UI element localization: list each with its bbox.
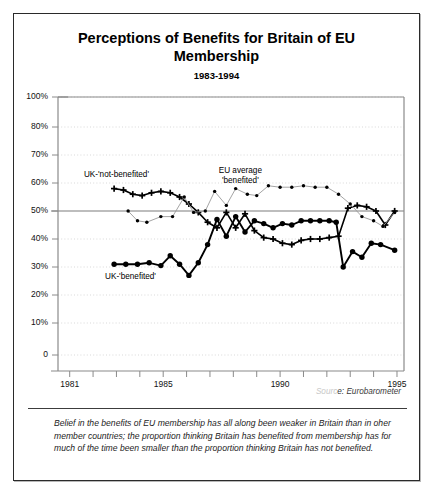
- y-axis-tick-label: 40%: [12, 234, 48, 243]
- series-line: [114, 189, 395, 245]
- series-marker-dot: [204, 209, 207, 212]
- series-label: EU average'benefited': [219, 166, 262, 186]
- series-marker-dot: [145, 221, 148, 224]
- series-marker-dot: [205, 242, 210, 247]
- y-axis-tick-label: 100%: [12, 92, 48, 101]
- series-marker-dot: [255, 194, 258, 197]
- series-marker-dot: [360, 215, 363, 218]
- chart-series: [111, 214, 397, 278]
- series-marker-dot: [392, 248, 397, 253]
- series-marker-dot: [136, 219, 139, 222]
- series-marker-dot: [214, 217, 219, 222]
- series-label-line-2: 'benefited': [219, 176, 262, 186]
- y-axis-tick-label: 0: [12, 350, 48, 359]
- series-marker-dot: [334, 220, 339, 225]
- source-prefix: Sourc: [316, 387, 337, 396]
- series-marker-dot: [123, 262, 128, 267]
- series-marker-dot: [126, 209, 129, 212]
- series-marker-dot: [146, 260, 151, 265]
- series-marker-dot: [177, 262, 182, 267]
- series-marker-dot: [393, 211, 396, 214]
- series-marker-dot: [159, 215, 162, 218]
- series-marker-dot: [369, 241, 374, 246]
- series-marker-dot: [378, 242, 383, 247]
- series-marker-dot: [225, 204, 228, 207]
- series-marker-dot: [308, 218, 313, 223]
- series-marker-dot: [171, 215, 174, 218]
- series-marker-dot: [234, 187, 237, 190]
- series-marker-dot: [224, 234, 229, 239]
- figure-caption: Belief in the benefits of EU membership …: [54, 417, 394, 455]
- series-marker-dot: [313, 186, 316, 189]
- series-marker-dot: [381, 225, 384, 228]
- series-marker-dot: [261, 221, 266, 226]
- series-marker-dot: [270, 225, 275, 230]
- y-axis-tick-label: 20%: [12, 290, 48, 299]
- series-marker-dot: [278, 186, 281, 189]
- series-marker-dot: [135, 262, 140, 267]
- series-marker-dot: [302, 184, 305, 187]
- series-marker-dot: [337, 193, 340, 196]
- series-label: UK-'benefited': [105, 272, 156, 282]
- series-label-line-1: EU average: [219, 166, 262, 176]
- series-marker-dot: [183, 195, 186, 198]
- series-marker-dot: [196, 260, 201, 265]
- x-axis-tick-label: 1995: [377, 380, 417, 389]
- series-marker-dot: [192, 211, 195, 214]
- series-marker-dot: [233, 214, 238, 219]
- series-marker-dot: [298, 218, 303, 223]
- series-marker-dot: [349, 202, 352, 205]
- series-marker-dot: [350, 249, 355, 254]
- y-axis-tick-label: 30%: [12, 262, 48, 271]
- series-marker-dot: [359, 255, 364, 260]
- series-marker-dot: [267, 184, 270, 187]
- series-line: [114, 217, 395, 276]
- y-axis-tick-label: 80%: [12, 122, 48, 131]
- series-marker-dot: [246, 193, 249, 196]
- series-marker-dot: [252, 218, 257, 223]
- x-axis-tick-label: 1990: [260, 380, 300, 389]
- series-marker-dot: [111, 262, 116, 267]
- y-axis-tick-label: 10%: [12, 318, 48, 327]
- series-marker-dot: [186, 273, 191, 278]
- series-marker-dot: [213, 190, 216, 193]
- series-marker-dot: [290, 186, 293, 189]
- series-marker-dot: [372, 219, 375, 222]
- chart-plot-area: [14, 14, 421, 482]
- series-marker-dot: [317, 218, 322, 223]
- series-marker-dot: [158, 263, 163, 268]
- caption-divider: [28, 408, 407, 409]
- series-marker-dot: [168, 253, 173, 258]
- series-marker-dot: [280, 221, 285, 226]
- y-axis-tick-label: 60%: [12, 178, 48, 187]
- x-axis-tick-label: 1985: [143, 380, 183, 389]
- figure-frame: Perceptions of Benefits for Britain of E…: [13, 13, 420, 481]
- y-axis-tick-label: 70%: [12, 150, 48, 159]
- series-marker-dot: [289, 222, 294, 227]
- series-marker-dot: [341, 264, 346, 269]
- y-axis-tick-label: 50%: [12, 206, 48, 215]
- series-marker-dot: [326, 218, 331, 223]
- x-axis-tick-label: 1981: [50, 380, 90, 389]
- series-marker-dot: [325, 186, 328, 189]
- series-label: UK-'not-benefited': [84, 170, 149, 180]
- series-marker-dot: [242, 229, 247, 234]
